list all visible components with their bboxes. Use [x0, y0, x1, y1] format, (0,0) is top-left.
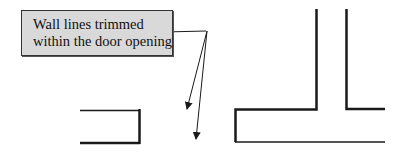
- left-wall-stub: [80, 109, 140, 144]
- t-junction-wall: [235, 9, 385, 142]
- callout-line-2: within the door opening: [33, 33, 172, 50]
- callout-label-box: Wall lines trimmed within the door openi…: [21, 10, 173, 56]
- door-opening-diagram: Wall lines trimmed within the door openi…: [0, 0, 407, 156]
- arrow-icon: [187, 31, 207, 109]
- callout-line-1: Wall lines trimmed: [33, 16, 172, 33]
- arrow-icon: [196, 31, 207, 139]
